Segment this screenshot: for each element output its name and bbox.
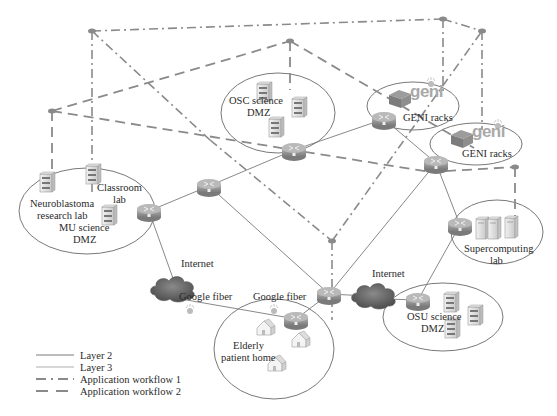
legend-item-workflow1: Application workflow 1 — [36, 373, 181, 385]
legend: Layer 2 Layer 3 Application workflow 1 A… — [36, 349, 181, 397]
thin-line-icon — [36, 363, 74, 371]
supercomputing-label-1: Supercomputing — [464, 243, 533, 255]
router-icon — [406, 293, 430, 311]
server-icon — [505, 216, 518, 238]
mu-dmz-label-1: MU science — [59, 222, 109, 234]
server-icon — [488, 217, 501, 239]
elderly-label-1: Elderly — [233, 340, 264, 352]
classroom-label-1: Classroom — [97, 182, 142, 194]
geni-right-label: GENI racks — [462, 148, 512, 160]
legend-item-workflow2: Application workflow 2 — [36, 385, 181, 397]
osu-label-1: OSU science — [407, 311, 462, 323]
geni-rack-icon — [451, 130, 473, 148]
legend-item-layer3: Layer 3 — [36, 361, 181, 373]
house-icon — [292, 331, 310, 347]
osc-label-2: DMZ — [247, 107, 270, 119]
legend-item-layer2: Layer 2 — [36, 349, 181, 361]
osu-label-2: DMZ — [421, 323, 444, 335]
router-icon — [424, 156, 448, 174]
legend-label: Layer 3 — [80, 362, 112, 373]
google-fiber-right-label: Google fiber — [253, 291, 306, 303]
cloud-icon — [352, 284, 396, 309]
router-icon — [284, 312, 308, 330]
geni-logo-top: geni — [410, 82, 443, 102]
sensor-icon — [270, 304, 278, 314]
mu-dmz-label-2: DMZ — [73, 234, 96, 246]
supercomputing-label-2: lab — [490, 255, 503, 267]
neuro-label-2: research lab — [37, 210, 87, 222]
legend-label: Application workflow 1 — [80, 374, 181, 385]
elderly-label-2: patient home — [221, 352, 276, 364]
sensor-icon — [186, 304, 194, 314]
geni-rack-icon — [389, 90, 411, 108]
solid-line-icon — [36, 351, 74, 359]
dashed-line-icon — [36, 387, 74, 395]
osc-label-1: OSC science — [229, 95, 283, 107]
geni-logo-right: geni — [472, 122, 505, 142]
server-icon — [476, 217, 489, 239]
geni-top-label: GENI racks — [403, 112, 453, 124]
internet-left-label: Internet — [181, 258, 214, 270]
osc-ellipse — [221, 73, 335, 153]
router-icon — [137, 204, 161, 222]
router-icon — [282, 143, 306, 161]
server-icon — [86, 164, 101, 184]
neuro-label-1: Neuroblastoma — [30, 198, 94, 210]
server-icon — [292, 97, 307, 117]
server-icon — [40, 172, 55, 192]
router-icon — [448, 218, 472, 236]
router-icon — [317, 287, 341, 305]
legend-label: Layer 2 — [80, 350, 112, 361]
router-icon — [197, 179, 221, 197]
google-fiber-left-label: Google fiber — [179, 291, 232, 303]
router-icon — [372, 112, 396, 130]
internet-right-label: Internet — [372, 268, 405, 280]
workflow-1-links — [92, 19, 482, 320]
house-icon — [257, 319, 275, 335]
dash-dot-line-icon — [36, 375, 74, 383]
classroom-label-2: lab — [113, 194, 126, 206]
server-icon — [444, 292, 459, 312]
server-icon — [269, 117, 284, 137]
server-icon — [468, 305, 483, 325]
legend-label: Application workflow 2 — [80, 386, 181, 397]
